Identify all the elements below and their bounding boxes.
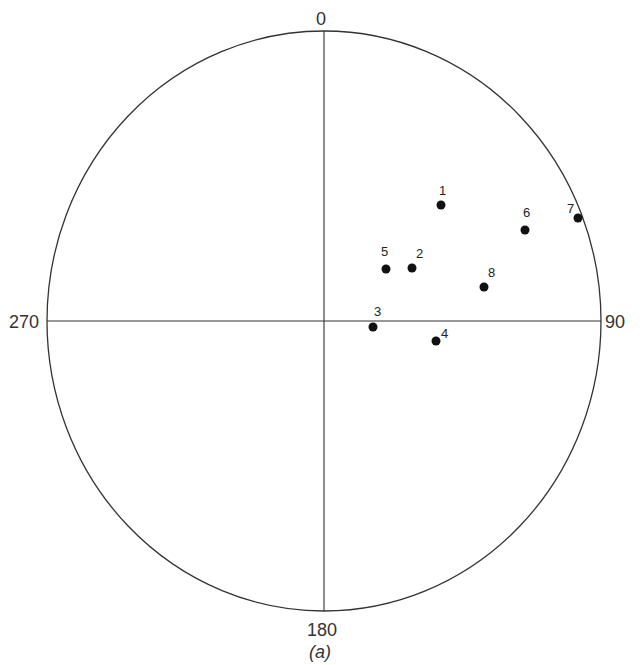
point-marker (432, 337, 441, 346)
point-label: 5 (381, 244, 388, 259)
point-marker (574, 214, 583, 223)
data-point-1: 1 (437, 183, 447, 210)
axis-label-top: 0 (316, 10, 326, 28)
point-label: 8 (488, 265, 495, 280)
data-point-5: 5 (381, 244, 391, 274)
point-label: 1 (439, 183, 446, 198)
figure-caption: (a) (309, 643, 331, 661)
point-marker (480, 283, 489, 292)
point-marker (437, 201, 446, 210)
data-point-8: 8 (480, 265, 496, 292)
data-point-6: 6 (521, 205, 531, 235)
point-label: 2 (416, 246, 423, 261)
point-label: 4 (441, 326, 448, 341)
point-marker (408, 264, 417, 273)
axis-label-left: 270 (9, 313, 39, 331)
point-label: 6 (523, 205, 530, 220)
point-marker (382, 265, 391, 274)
data-point-3: 3 (369, 304, 382, 332)
point-label: 3 (374, 304, 381, 319)
point-marker (521, 226, 530, 235)
data-point-2: 2 (408, 246, 424, 273)
data-point-4: 4 (432, 326, 449, 346)
stereonet-plot: 12345678 (0, 0, 643, 665)
point-marker (369, 323, 378, 332)
axis-label-right: 90 (605, 313, 625, 331)
point-label: 7 (567, 201, 574, 216)
axis-label-bottom: 180 (307, 621, 337, 639)
